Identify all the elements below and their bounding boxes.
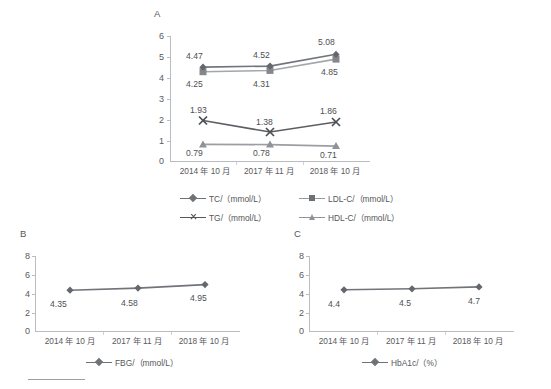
legend-item-tg[interactable]: TG/（mmol/L）	[180, 211, 285, 223]
value-label-hba1c-1: 4.4	[328, 300, 340, 309]
panel-c-legend: HbA1c/（%）	[362, 356, 442, 368]
legend-item-tc[interactable]: TC/（mmol/L）	[180, 192, 285, 204]
legend-item-fbg[interactable]: FBG/（mmol/L）	[86, 356, 178, 368]
value-label-hba1c-3: 4.7	[468, 297, 480, 306]
legend-label-tc: TC/（mmol/L）	[209, 192, 266, 204]
legend-marker-square-icon	[299, 194, 325, 203]
marker-fbg-1	[66, 287, 73, 294]
legend-item-hdl-c[interactable]: HDL-C/（mmol/L）	[299, 211, 404, 223]
legend-marker-diamond-icon	[180, 194, 206, 203]
value-label-ldl-c-3: 4.85	[321, 68, 338, 77]
value-label-fbg-1: 4.35	[50, 300, 67, 309]
value-label-ldl-c-1: 4.25	[186, 80, 203, 89]
panel-b-legend: FBG/（mmol/L）	[86, 356, 178, 368]
value-label-hdl-c-3: 0.71	[320, 151, 337, 160]
legend-marker-diamond-icon	[86, 358, 112, 367]
panel-c: C 8 6 4 2 0 2014 年 10 月 2017 年 11 月 2018…	[282, 228, 544, 383]
marker-hba1c-3	[475, 283, 482, 290]
value-label-tc-3: 5.08	[318, 38, 335, 47]
value-label-hdl-c-1: 0.79	[186, 149, 203, 158]
legend-marker-diamond-icon	[362, 358, 388, 367]
value-label-tc-1: 4.47	[186, 52, 203, 61]
marker-hba1c-2	[408, 285, 415, 292]
panel-a: A 6 5 4 3 2 1 0 2014 年 10 月 2017 年 11 月 …	[148, 6, 418, 221]
legend-item-hba1c[interactable]: HbA1c/（%）	[362, 356, 442, 368]
legend-marker-triangle-icon	[299, 213, 325, 222]
marker-fbg-3	[201, 281, 208, 288]
value-label-tc-2: 4.52	[253, 51, 270, 60]
value-label-fbg-3: 4.95	[190, 294, 207, 303]
legend-label-hdl-c: HDL-C/（mmol/L）	[328, 211, 399, 223]
panel-b: B 8 6 4 2 0 2014 年 10 月 2017 年 11 月 2018…	[8, 228, 270, 383]
legend-label-hba1c: HbA1c/（%）	[391, 356, 442, 368]
legend-marker-cross-icon	[180, 213, 206, 222]
value-label-hba1c-2: 4.5	[399, 299, 411, 308]
panel-a-legend: TC/（mmol/L） LDL-C/（mmol/L） TG/（mmol/L） H…	[180, 192, 420, 223]
legend-label-fbg: FBG/（mmol/L）	[115, 356, 178, 368]
marker-fbg-2	[134, 285, 141, 292]
legend-label-tg: TG/（mmol/L）	[209, 211, 266, 223]
value-label-ldl-c-2: 4.31	[253, 80, 270, 89]
figure-page: { "figure": { "panels": ["A", "B", "C"] …	[0, 0, 551, 389]
footer-rule	[28, 379, 85, 380]
value-label-fbg-2: 4.58	[121, 299, 138, 308]
marker-hba1c-1	[340, 286, 347, 293]
value-label-tg-3: 1.86	[320, 107, 337, 116]
legend-item-ldl-c[interactable]: LDL-C/（mmol/L）	[299, 192, 404, 204]
panel-a-series-svg	[148, 6, 418, 221]
value-label-tg-1: 1.93	[190, 106, 207, 115]
value-label-tg-2: 1.38	[256, 118, 273, 127]
legend-label-ldl-c: LDL-C/（mmol/L）	[328, 192, 398, 204]
value-label-hdl-c-2: 0.78	[253, 149, 270, 158]
